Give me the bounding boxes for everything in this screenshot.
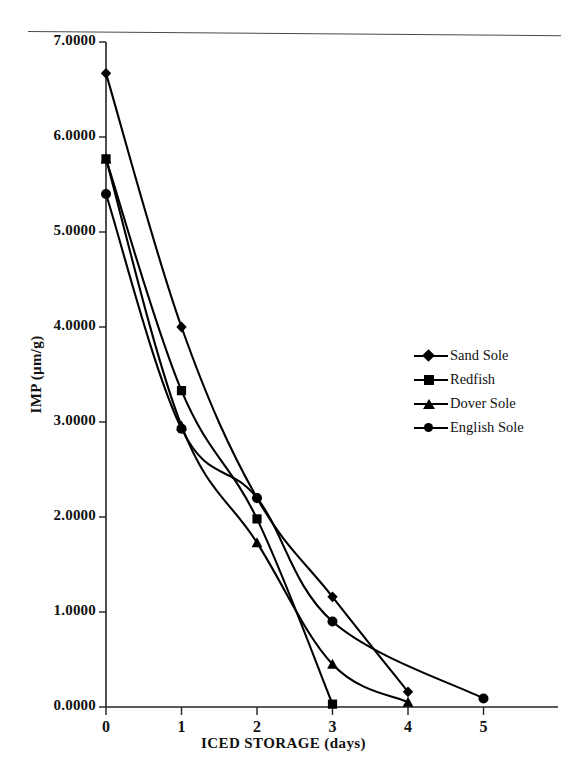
x-tick-label: 3 (313, 718, 353, 736)
triangle-marker-icon (403, 697, 414, 707)
legend-item-label: Dover Sole (448, 395, 516, 412)
x-tick-label: 4 (388, 718, 428, 736)
y-tick-label: 2.0000 (8, 507, 96, 524)
chart-figure: 0.00001.00002.00003.00004.00005.00006.00… (0, 0, 567, 771)
diamond-marker-icon (176, 322, 186, 333)
legend-key (414, 420, 448, 436)
y-tick-label: 0.0000 (8, 697, 96, 714)
legend-item: Dover Sole (414, 392, 564, 415)
series-line (106, 159, 408, 702)
x-axis-ticks (106, 707, 484, 715)
y-tick-label: 3.0000 (8, 412, 96, 429)
y-tick-label: 4.0000 (8, 317, 96, 334)
circle-marker-icon (479, 693, 489, 703)
legend-item-label: Redfish (448, 371, 495, 388)
x-tick-label: 0 (86, 718, 126, 736)
y-tick-label: 6.0000 (8, 127, 96, 144)
x-tick-label: 2 (237, 718, 277, 736)
diamond-marker-icon (101, 68, 111, 79)
legend-key (414, 396, 448, 412)
series-dover-sole (101, 153, 414, 706)
legend-key (414, 348, 448, 364)
diamond-marker-icon (422, 349, 435, 362)
square-marker-icon (177, 386, 186, 395)
square-marker-icon (328, 700, 337, 709)
legend-item: Redfish (414, 368, 564, 391)
series-redfish (101, 154, 337, 709)
y-axis-ticks (99, 42, 106, 707)
series-line (106, 159, 333, 704)
chart-legend: Sand SoleRedfishDover SoleEnglish Sole (414, 344, 564, 440)
series-line (106, 73, 408, 691)
legend-item-label: Sand Sole (448, 347, 508, 364)
y-tick-label: 1.0000 (8, 602, 96, 619)
circle-marker-icon (177, 424, 187, 434)
triangle-marker-icon (423, 399, 435, 409)
square-marker-icon (424, 375, 434, 385)
x-tick-label: 1 (162, 718, 202, 736)
series-english-sole (101, 189, 489, 703)
circle-marker-icon (424, 423, 433, 432)
legend-item: English Sole (414, 416, 564, 439)
circle-marker-icon (328, 617, 338, 627)
x-axis-title: ICED STORAGE (days) (0, 735, 567, 752)
y-tick-label: 7.0000 (8, 32, 96, 49)
series-sand-sole (101, 68, 413, 697)
circle-marker-icon (252, 493, 262, 503)
square-marker-icon (252, 514, 261, 523)
x-tick-label: 5 (464, 718, 504, 736)
legend-key (414, 372, 448, 388)
legend-item-label: English Sole (448, 419, 524, 436)
y-axis-title: IMP (µm/g) (28, 295, 45, 455)
circle-marker-icon (101, 189, 111, 199)
y-tick-label: 5.0000 (8, 222, 96, 239)
legend-item: Sand Sole (414, 344, 564, 367)
